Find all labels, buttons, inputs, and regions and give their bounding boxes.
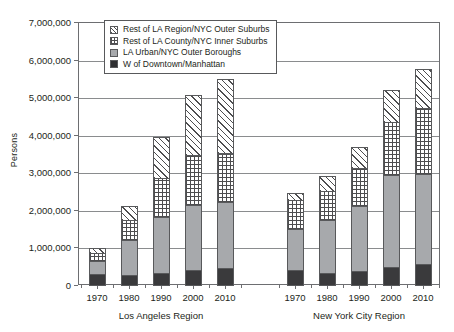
bar-segment [121,240,138,276]
bar-segment [121,206,138,221]
bar-segment [217,154,234,204]
bar-segment [415,108,432,175]
legend: Rest of LA Region/NYC Outer SuburbsRest … [104,20,277,74]
bar-segment [287,270,304,286]
x-tick-minor [279,285,280,288]
x-tick-minor [241,285,242,288]
bar-segment [185,95,202,157]
y-tick-label: 5,000,000 [29,92,71,103]
x-tick-minor [145,285,146,288]
legend-label: LA Urban/NYC Outer Boroughs [123,47,241,59]
bar-segment [383,122,400,177]
legend-label: Rest of LA County/NYC Inner Suburbs [123,36,268,48]
y-tick-label: 3,000,000 [29,167,71,178]
bar-stack [415,22,432,285]
stacked-bar-chart: Persons 7,000,0006,000,0005,000,0004,000… [0,0,454,332]
bar-segment [89,253,106,262]
legend-item: Rest of LA County/NYC Inner Suburbs [110,36,269,48]
y-tick-label: 1,000,000 [29,242,71,253]
y-tick-mark [74,135,78,136]
x-group-label: Los Angeles Region [81,310,241,321]
x-tick-minor [407,285,408,288]
bar-segment [217,202,234,269]
y-tick-label: 2,000,000 [29,204,71,215]
legend-item: Rest of LA Region/NYC Outer Suburbs [110,24,269,36]
bar-segment [153,178,170,218]
x-tick-minor [209,285,210,288]
bar-segment [217,79,234,154]
bar-stack [319,22,336,285]
bar-segment [319,191,336,221]
bar-stack [351,22,368,285]
bar-segment [351,271,368,286]
x-tick-label: 2010 [205,292,245,303]
x-tick-minor [439,285,440,288]
bar-segment [319,176,336,191]
legend-swatch-icon [110,49,118,57]
bar-segment [287,200,304,229]
y-tick-mark [74,60,78,61]
x-tick-label: 2010 [403,292,443,303]
bar-stack [287,22,304,285]
bar-segment [89,248,106,254]
legend-swatch-icon [110,60,118,68]
y-tick-label: 4,000,000 [29,129,71,140]
bar-segment [153,137,170,179]
bar-segment [153,217,170,274]
legend-item: W of Downtown/Manhattan [110,59,269,71]
y-axis-label: Persons [9,133,19,167]
legend-label: Rest of LA Region/NYC Outer Suburbs [123,24,269,36]
x-group-label: New York City Region [279,310,439,321]
bar-segment [383,175,400,267]
y-tick-mark [74,22,78,23]
bar-segment [121,275,138,286]
x-tick-minor [311,285,312,288]
bar-segment [185,270,202,286]
y-tick-label: 0 [66,280,71,291]
bar-segment [415,174,432,265]
bar-segment [319,220,336,274]
legend-item: LA Urban/NYC Outer Boroughs [110,47,269,59]
legend-label: W of Downtown/Manhattan [123,59,225,71]
bar-segment [351,168,368,207]
bar-segment [121,220,138,241]
y-tick-label: 7,000,000 [29,17,71,28]
y-tick-mark [74,247,78,248]
bar-stack [383,22,400,285]
bar-segment [383,90,400,123]
legend-swatch-icon [110,37,118,45]
x-tick-minor [177,285,178,288]
bar-segment [351,147,368,168]
bar-segment [415,264,432,286]
y-tick-label: 6,000,000 [29,54,71,65]
bar-segment [153,273,170,286]
bar-segment [287,193,304,202]
bar-segment [319,273,336,286]
y-tick-mark [74,97,78,98]
x-tick-minor [113,285,114,288]
x-tick-minor [81,285,82,288]
y-tick-mark [74,172,78,173]
y-tick-mark [74,285,78,286]
bar-segment [185,205,202,272]
legend-swatch-icon [110,26,118,34]
bar-segment [89,274,106,286]
bar-stack [89,22,106,285]
x-tick-minor [375,285,376,288]
bar-segment [217,268,234,286]
bar-segment [383,267,400,286]
bar-segment [185,155,202,205]
bar-segment [415,69,432,109]
x-tick-minor [343,285,344,288]
bar-segment [287,229,304,271]
y-tick-mark [74,210,78,211]
bar-segment [351,206,368,273]
bar-segment [89,261,106,275]
